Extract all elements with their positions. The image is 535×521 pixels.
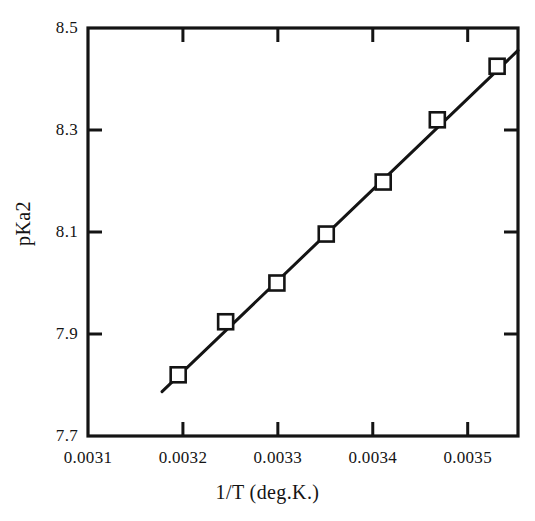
x-tick-label: 0.0031 xyxy=(64,448,113,468)
trend-line-path xyxy=(162,50,518,391)
data-point-marker xyxy=(490,59,505,74)
data-point-marker xyxy=(171,367,186,382)
data-point-marker xyxy=(319,227,334,242)
plot-canvas xyxy=(0,0,535,521)
y-axis-ticks xyxy=(88,130,518,334)
data-point-marker xyxy=(218,314,233,329)
data-point-marker xyxy=(430,112,445,127)
y-tick-label: 8.3 xyxy=(26,120,78,140)
plot-frame xyxy=(88,28,518,436)
fit-line xyxy=(162,50,518,391)
y-tick-label: 8.5 xyxy=(26,18,78,38)
x-tick-label: 0.0034 xyxy=(348,448,397,468)
y-tick-label: 7.7 xyxy=(26,426,78,446)
y-tick-label: 7.9 xyxy=(26,324,78,344)
data-point-marker xyxy=(376,175,391,190)
x-tick-label: 0.0033 xyxy=(254,448,303,468)
data-point-marker xyxy=(269,276,284,291)
x-tick-label: 0.0035 xyxy=(443,448,492,468)
x-axis-title: 1/T (deg.K.) xyxy=(0,481,535,504)
y-axis-title: pKa2 xyxy=(12,179,35,269)
chart-figure: 7.77.98.18.38.5 0.00310.00320.00330.0034… xyxy=(0,0,535,521)
x-tick-label: 0.0032 xyxy=(159,448,208,468)
